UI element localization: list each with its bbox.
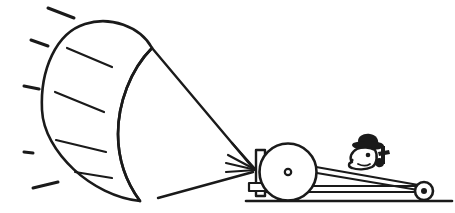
driver-eye (366, 153, 371, 158)
rear-wheel-hub (421, 188, 427, 194)
winch-drum-group (249, 144, 317, 201)
kite-buggy-illustration (0, 0, 455, 213)
rear-wheel-group (415, 182, 433, 200)
wind-dash-4 (24, 152, 33, 153)
driver-nose (350, 158, 353, 161)
winch-drum-hub (285, 169, 291, 175)
illustration-canvas: A crescent-shaped traction kite tethered… (0, 0, 455, 213)
